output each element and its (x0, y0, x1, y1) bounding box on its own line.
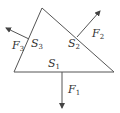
side-label-s3-sub: 3 (39, 43, 43, 51)
side-label-s2: S2 (68, 38, 80, 51)
side-label-s2-sub: 2 (76, 43, 80, 51)
side-label-s2-base: S (68, 37, 76, 50)
force-triangle-diagram: S1 S2 S3 F1 F2 F3 (0, 0, 120, 113)
side-label-s1-sub: 1 (56, 63, 60, 71)
force-label-f3-base: F (12, 39, 20, 52)
force-label-f2-sub: 2 (100, 33, 104, 41)
side-label-s3: S3 (31, 38, 43, 51)
force-label-f1: F1 (68, 84, 80, 97)
force-label-f2-base: F (92, 27, 100, 40)
side-label-s3-base: S (31, 37, 39, 50)
side-label-s1-base: S (48, 57, 56, 70)
force-label-f1-sub: 1 (76, 89, 80, 97)
force-arrow-f3 (6, 28, 29, 39)
force-label-f3: F3 (12, 40, 24, 53)
force-label-f3-sub: 3 (20, 45, 24, 53)
diagram-svg (0, 0, 120, 113)
force-label-f1-base: F (68, 83, 76, 96)
force-label-f2: F2 (92, 28, 104, 41)
side-label-s1: S1 (48, 58, 60, 71)
